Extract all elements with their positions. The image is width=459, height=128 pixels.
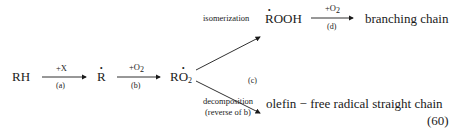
step-a-label: (a)	[56, 82, 65, 90]
step-c-label: (c)	[248, 77, 257, 85]
step-b-reagent: +O2	[129, 63, 144, 74]
arrow-c-up	[196, 37, 260, 70]
step-d-label: (d)	[327, 23, 336, 31]
step-a-reagent: +X	[56, 64, 67, 73]
decomposition-note: (reverse of b)	[205, 108, 251, 117]
species-rooh-radical: ROOH	[265, 12, 302, 25]
step-b-label: (b)	[131, 82, 140, 90]
product-branching-chain: branching chain	[365, 12, 448, 25]
equation-number: (60)	[427, 114, 449, 127]
species-ro2-radical: RO2	[170, 70, 192, 85]
species-r-radical: R	[97, 70, 106, 83]
product-olefin-straight-chain: olefin − free radical straight chain	[266, 97, 443, 110]
step-d-reagent: +O2	[325, 4, 340, 15]
process-decomposition: decomposition	[203, 97, 253, 106]
species-rh: RH	[12, 70, 30, 83]
process-isomerization: isomerization	[203, 14, 249, 23]
